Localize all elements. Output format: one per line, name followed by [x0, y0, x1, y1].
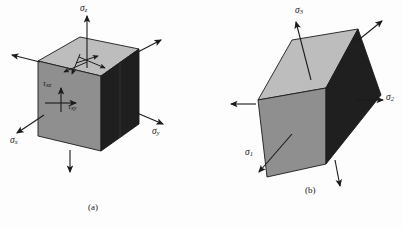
arrow-sigma-2-upper: [356, 21, 382, 42]
panel-b-cube: [231, 21, 383, 186]
stress-element-figure: σz σx σy τxz τxy (a) σ3 σ2 σ1 (b): [0, 0, 403, 227]
figure-svg: [0, 0, 403, 227]
label-sigma-z: σz: [80, 4, 87, 14]
label-sigma-2: σ2: [386, 93, 394, 103]
caption-panel-b: (b): [305, 185, 316, 195]
label-sigma-x: σx: [10, 136, 18, 146]
arrow-sigma-3-opposite: [335, 160, 340, 186]
arrow-left-upper: [12, 55, 40, 62]
caption-panel-a: (a): [88, 202, 98, 212]
label-sigma-y: σy: [152, 127, 160, 137]
cube-b-left-face: [258, 88, 326, 177]
label-tau-xy: τxy: [68, 103, 77, 112]
label-sigma-3: σ3: [295, 6, 303, 16]
arrow-right-upper: [134, 40, 161, 54]
panel-a-cube: [12, 16, 163, 172]
arrow-sigma-y: [137, 113, 163, 124]
label-sigma-1: σ1: [245, 148, 253, 158]
label-tau-xz: τxz: [43, 80, 51, 89]
